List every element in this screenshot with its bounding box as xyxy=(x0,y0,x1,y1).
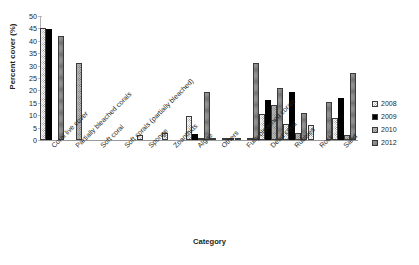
y-tick-45: 45 xyxy=(29,24,37,33)
y-tick-35: 35 xyxy=(29,49,37,58)
bar xyxy=(253,63,259,140)
y-tick-50: 50 xyxy=(29,12,37,21)
bar-group xyxy=(234,16,258,140)
legend: 2008200920102012 xyxy=(372,100,418,152)
bar-group xyxy=(113,16,137,140)
bar-group xyxy=(162,16,186,140)
bar xyxy=(350,73,356,140)
bar-group xyxy=(307,16,331,140)
legend-swatch-icon xyxy=(372,127,378,133)
legend-item-2010[interactable]: 2010 xyxy=(372,126,418,133)
legend-item-2009[interactable]: 2009 xyxy=(372,113,418,120)
legend-item-2012[interactable]: 2012 xyxy=(372,139,418,146)
legend-label: 2009 xyxy=(381,113,397,120)
y-tick-0: 0 xyxy=(33,136,37,145)
y-tick-30: 30 xyxy=(29,61,37,70)
y-axis-tick-labels: 05101520253035404550 xyxy=(14,16,37,140)
y-tick-40: 40 xyxy=(29,36,37,45)
y-tick-15: 15 xyxy=(29,98,37,107)
bar xyxy=(58,36,64,140)
bar xyxy=(76,63,82,140)
bar-chart-figure: Percent cover (%) 05101520253035404550 C… xyxy=(0,0,419,265)
y-tick-20: 20 xyxy=(29,86,37,95)
plot-area xyxy=(40,16,356,140)
bar-group xyxy=(332,16,356,140)
y-tick-5: 5 xyxy=(33,123,37,132)
legend-swatch-icon xyxy=(372,140,378,146)
bar xyxy=(338,98,344,140)
bar-group xyxy=(40,16,64,140)
bar xyxy=(46,29,52,140)
legend-label: 2008 xyxy=(381,100,397,107)
y-tick-10: 10 xyxy=(29,111,37,120)
legend-label: 2010 xyxy=(381,126,397,133)
legend-item-2008[interactable]: 2008 xyxy=(372,100,418,107)
legend-label: 2012 xyxy=(381,139,397,146)
legend-swatch-icon xyxy=(372,114,378,120)
legend-swatch-icon xyxy=(372,101,378,107)
y-tick-25: 25 xyxy=(29,74,37,83)
x-axis-title: Category xyxy=(0,237,419,246)
bar-group xyxy=(210,16,234,140)
